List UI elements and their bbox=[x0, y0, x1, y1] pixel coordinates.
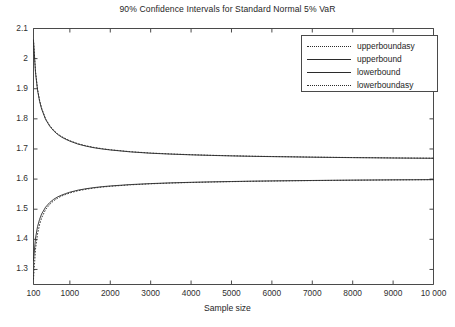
series-line-lowerbound bbox=[34, 180, 434, 261]
legend-swatch-solid-line-icon bbox=[307, 54, 351, 64]
y-axis-tick-label: 1.8 bbox=[2, 113, 28, 123]
x-axis-title: Sample size bbox=[0, 303, 455, 313]
legend-item-lowerboundasy: lowerboundasy bbox=[302, 78, 439, 91]
legend-item-label: lowerboundasy bbox=[357, 80, 413, 90]
legend-item-lowerbound: lowerbound bbox=[302, 65, 439, 78]
x-axis-tick-label: 5000 bbox=[211, 288, 251, 298]
y-axis-tick-label: 1.4 bbox=[2, 233, 28, 243]
legend-swatch-solid-line-icon bbox=[307, 67, 351, 77]
y-axis-tick-label: 2.1 bbox=[2, 23, 28, 33]
y-axis-tick-label: 1.6 bbox=[2, 173, 28, 183]
x-axis-tick-label: 100 bbox=[14, 288, 54, 298]
legend-swatch-dotted-line-icon bbox=[307, 80, 351, 90]
x-axis-tick-label: 4000 bbox=[171, 288, 211, 298]
chart-figure: 90% Confidence Intervals for Standard No… bbox=[0, 0, 455, 327]
y-axis-tick-label: 1.3 bbox=[2, 263, 28, 273]
y-axis-tick-label: 1.7 bbox=[2, 143, 28, 153]
x-axis-tick-label: 10 000 bbox=[414, 288, 454, 298]
y-axis-tick-label: 1.9 bbox=[2, 83, 28, 93]
legend-item-label: lowerbound bbox=[357, 67, 400, 77]
legend-item-label: upperboundasy bbox=[357, 41, 415, 51]
x-axis-tick-label: 2000 bbox=[90, 288, 130, 298]
x-axis-tick-label: 1000 bbox=[50, 288, 90, 298]
legend-item-upperboundasy: upperboundasy bbox=[302, 39, 439, 52]
x-axis-tick-label: 7000 bbox=[292, 288, 332, 298]
x-axis-tick-label: 9000 bbox=[373, 288, 413, 298]
legend-swatch-dotted-line-icon bbox=[307, 41, 351, 51]
legend-item-label: upperbound bbox=[357, 54, 402, 64]
chart-legend: upperboundasyupperboundlowerboundlowerbo… bbox=[301, 35, 438, 92]
y-axis-tick-label: 2 bbox=[2, 53, 28, 63]
x-axis-tick-label: 6000 bbox=[252, 288, 292, 298]
legend-item-upperbound: upperbound bbox=[302, 52, 439, 65]
series-line-lowerboundasy bbox=[34, 180, 434, 279]
y-axis-tick-label: 1.5 bbox=[2, 203, 28, 213]
x-axis-tick-label: 3000 bbox=[131, 288, 171, 298]
x-axis-tick-label: 8000 bbox=[333, 288, 373, 298]
